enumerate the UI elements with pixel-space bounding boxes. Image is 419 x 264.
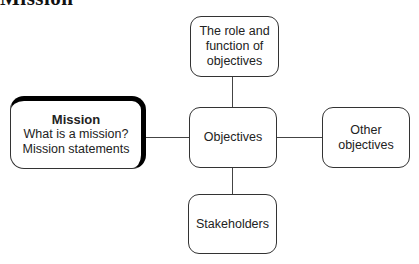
node-label: Objectives bbox=[204, 130, 262, 145]
connector-left bbox=[145, 137, 189, 138]
node-stakeholders: Stakeholders bbox=[188, 194, 277, 254]
connector-top bbox=[232, 77, 233, 108]
node-mission: Mission What is a mission? Mission state… bbox=[10, 96, 146, 169]
node-role-and-function: The role and function of objectives bbox=[190, 16, 279, 77]
node-other-objectives: Other objectives bbox=[322, 107, 410, 168]
node-label: Stakeholders bbox=[196, 217, 269, 232]
section-heading: Mission bbox=[0, 0, 74, 11]
node-line: What is a mission? bbox=[24, 127, 129, 142]
node-title: Mission bbox=[52, 112, 100, 127]
node-line: function of bbox=[206, 39, 264, 54]
node-line: objectives bbox=[338, 138, 394, 153]
node-objectives: Objectives bbox=[189, 107, 277, 168]
connector-right bbox=[277, 137, 322, 138]
connector-bottom bbox=[232, 168, 233, 194]
node-line: The role and bbox=[199, 24, 269, 39]
node-line: Other bbox=[350, 123, 381, 138]
node-line: objectives bbox=[207, 54, 263, 69]
node-line: Mission statements bbox=[23, 142, 130, 157]
